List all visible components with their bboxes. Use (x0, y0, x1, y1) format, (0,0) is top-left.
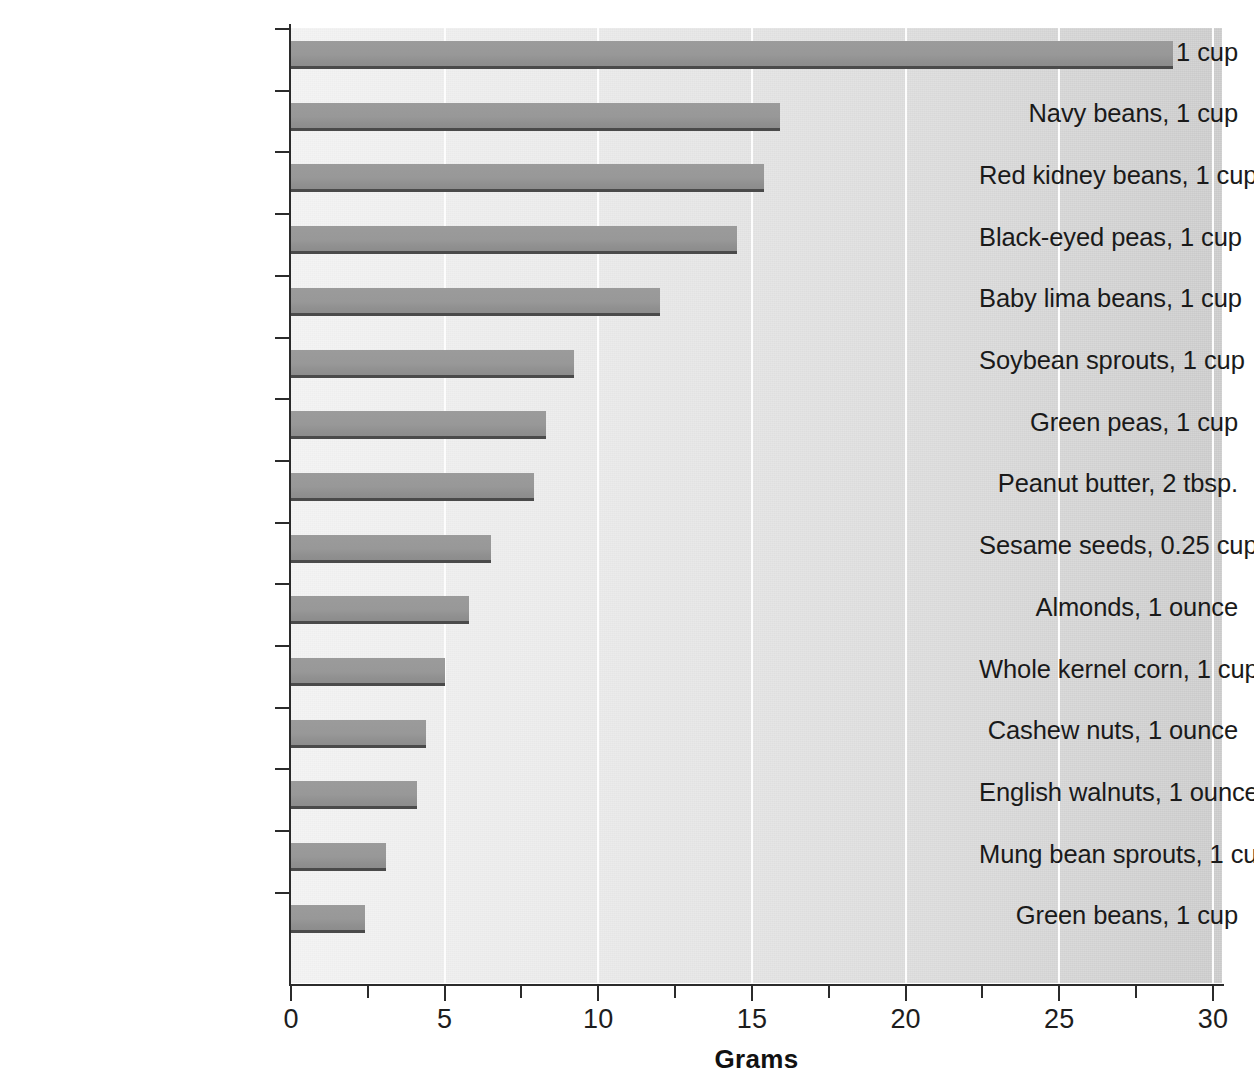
category-label: Mung bean sprouts, 1 cup (979, 840, 1254, 869)
protein-bar-chart: Soybeans, 1 cupNavy beans, 1 cupRed kidn… (0, 0, 1254, 1085)
bar (291, 411, 546, 439)
y-axis-tick (275, 398, 291, 400)
x-axis-tick-10 (597, 986, 599, 1001)
y-axis-tick (275, 892, 291, 894)
bar (291, 843, 386, 871)
bar (291, 473, 534, 501)
bar (291, 164, 764, 192)
x-axis-minor-tick (367, 986, 369, 998)
category-label: Green peas, 1 cup (979, 408, 1254, 437)
x-axis-tick-15 (751, 986, 753, 1001)
y-axis-tick (275, 151, 291, 153)
x-axis-tick-label: 0 (251, 1004, 331, 1035)
category-label: Whole kernel corn, 1 cup (979, 655, 1254, 684)
bar (291, 41, 1173, 69)
bar (291, 103, 780, 131)
x-axis-tick-20 (905, 986, 907, 1001)
bar (291, 350, 574, 378)
x-axis-tick-25 (1058, 986, 1060, 1001)
y-axis-tick (275, 830, 291, 832)
x-axis-minor-tick (981, 986, 983, 998)
y-axis-tick (275, 522, 291, 524)
bar (291, 288, 660, 316)
category-label: Green beans, 1 cup (979, 901, 1254, 930)
x-axis-minor-tick (674, 986, 676, 998)
gridline-20 (905, 28, 907, 983)
y-axis-tick (275, 213, 291, 215)
bar (291, 226, 737, 254)
x-axis-tick-label: 20 (866, 1004, 946, 1035)
category-label: Peanut butter, 2 tbsp. (979, 469, 1254, 498)
x-axis-minor-tick (828, 986, 830, 998)
x-axis-tick-5 (444, 986, 446, 1001)
y-axis-tick (275, 707, 291, 709)
x-axis-tick-label: 30 (1173, 1004, 1253, 1035)
category-label: Navy beans, 1 cup (979, 99, 1254, 128)
x-axis-tick-label: 25 (1019, 1004, 1099, 1035)
x-axis-title: Grams (291, 1044, 1222, 1075)
category-label: English walnuts, 1 ounce (979, 778, 1254, 807)
bar (291, 720, 426, 748)
category-label: Black-eyed peas, 1 cup (979, 223, 1254, 252)
x-axis-line (289, 984, 1224, 986)
x-axis-tick-label: 5 (405, 1004, 485, 1035)
bar (291, 905, 365, 933)
y-axis-tick (275, 768, 291, 770)
bar (291, 596, 469, 624)
category-label: Sesame seeds, 0.25 cup (979, 531, 1254, 560)
category-label: Almonds, 1 ounce (979, 593, 1254, 622)
bar (291, 781, 417, 809)
y-axis-tick (275, 460, 291, 462)
x-axis-minor-tick (520, 986, 522, 998)
x-axis-tick-0 (290, 986, 292, 1001)
y-axis-tick (275, 583, 291, 585)
category-label: Red kidney beans, 1 cup (979, 161, 1254, 190)
y-axis-tick (275, 645, 291, 647)
y-axis-tick (275, 275, 291, 277)
category-label: Cashew nuts, 1 ounce (979, 716, 1254, 745)
bar (291, 535, 491, 563)
x-axis-minor-tick (1135, 986, 1137, 998)
bar (291, 658, 445, 686)
x-axis-tick-30 (1212, 986, 1214, 1001)
category-label: Baby lima beans, 1 cup (979, 284, 1254, 313)
x-axis-tick-label: 15 (712, 1004, 792, 1035)
y-axis-tick (275, 337, 291, 339)
category-label: Soybean sprouts, 1 cup (979, 346, 1254, 375)
x-axis-tick-label: 10 (558, 1004, 638, 1035)
y-axis-tick (275, 90, 291, 92)
y-axis-tick (275, 28, 291, 30)
